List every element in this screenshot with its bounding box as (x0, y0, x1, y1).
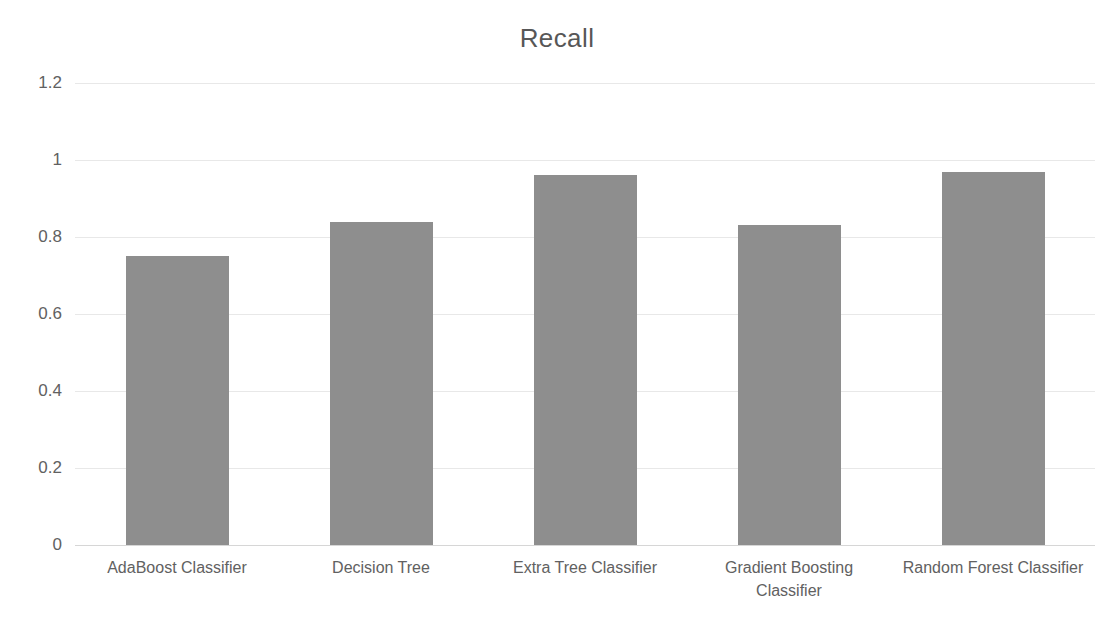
bar (330, 222, 433, 545)
x-category-label: AdaBoost Classifier (79, 556, 275, 579)
bar (942, 172, 1045, 545)
x-axis-category-labels: AdaBoost ClassifierDecision TreeExtra Tr… (75, 556, 1095, 626)
x-category-label: Extra Tree Classifier (487, 556, 683, 579)
y-tick-label: 0.2 (6, 458, 62, 478)
bar (126, 256, 229, 545)
x-category-label: Random Forest Classifier (895, 556, 1091, 579)
y-tick-label: 1.2 (6, 73, 62, 93)
bar (534, 175, 637, 545)
y-tick-label: 1 (6, 150, 62, 170)
x-category-label: Decision Tree (283, 556, 479, 579)
chart-title: Recall (0, 22, 1114, 54)
y-tick-label: 0.6 (6, 304, 62, 324)
x-category-label: Gradient Boosting Classifier (691, 556, 887, 602)
bar (738, 225, 841, 545)
gridline (75, 545, 1095, 546)
y-tick-label: 0.4 (6, 381, 62, 401)
y-tick-label: 0.8 (6, 227, 62, 247)
recall-bar-chart: Recall 00.20.40.60.811.2 AdaBoost Classi… (0, 0, 1114, 632)
bar-series (75, 83, 1095, 545)
y-tick-label: 0 (6, 535, 62, 555)
y-axis-tick-labels: 00.20.40.60.811.2 (0, 83, 62, 545)
